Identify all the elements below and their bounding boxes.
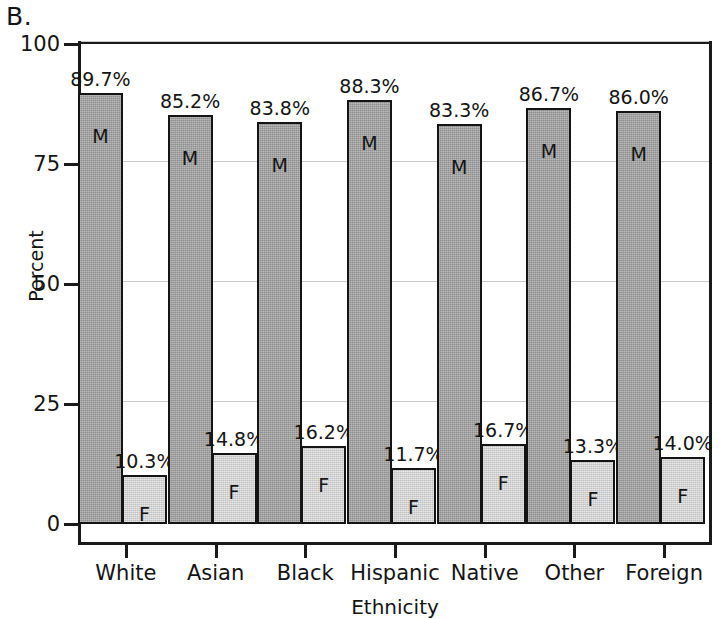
y-tick-label: 100 xyxy=(0,34,60,55)
bars-area: M89.7%F10.3%M85.2%F14.8%M83.8%F16.2%M88.… xyxy=(81,44,709,524)
x-tick-mark xyxy=(484,545,487,558)
bar-hispanic-f[interactable]: F xyxy=(391,468,436,524)
x-tick-mark xyxy=(394,545,397,558)
x-tick-label-foreign: Foreign xyxy=(625,561,703,585)
bar-value-label: 83.8% xyxy=(240,97,320,119)
bar-series-letter: F xyxy=(483,472,524,494)
bar-series-letter: F xyxy=(393,496,434,518)
panel-label: B. xyxy=(6,2,32,31)
x-tick-mark xyxy=(125,545,128,558)
bar-series-letter: M xyxy=(259,154,300,176)
bar-value-label: 86.0% xyxy=(599,86,679,108)
x-tick-label-asian: Asian xyxy=(187,561,244,585)
bar-series-letter: F xyxy=(572,488,613,510)
bar-value-label: 88.3% xyxy=(330,75,410,97)
bar-asian-m[interactable]: M xyxy=(168,115,213,524)
x-axis: Ethnicity WhiteAsianBlackHispanicNativeO… xyxy=(78,545,712,613)
y-tick-label: 25 xyxy=(0,394,60,415)
y-axis-title: Percent xyxy=(25,206,47,326)
bar-foreign-f[interactable]: F xyxy=(660,457,705,524)
bar-value-label: 14.0% xyxy=(643,432,722,454)
bar-series-letter: F xyxy=(662,485,703,507)
bar-value-label: 85.2% xyxy=(150,90,230,112)
x-tick-label-hispanic: Hispanic xyxy=(350,561,439,585)
bar-other-m[interactable]: M xyxy=(526,108,571,524)
x-tick-label-black: Black xyxy=(277,561,334,585)
x-tick-mark xyxy=(215,545,218,558)
bar-native-f[interactable]: F xyxy=(481,444,526,524)
x-tick-label-white: White xyxy=(95,561,156,585)
bar-group: M89.7%F10.3% xyxy=(81,44,171,524)
gridline xyxy=(81,41,709,42)
bar-series-letter: F xyxy=(303,474,344,496)
bar-black-f[interactable]: F xyxy=(301,446,346,524)
bar-series-letter: M xyxy=(528,140,569,162)
x-tick-mark xyxy=(573,545,576,558)
x-tick-mark xyxy=(663,545,666,558)
bar-group: M83.8%F16.2% xyxy=(260,44,350,524)
bar-series-letter: M xyxy=(170,147,211,169)
bar-series-letter: F xyxy=(214,481,255,503)
bar-series-letter: M xyxy=(349,132,390,154)
x-tick-mark xyxy=(304,545,307,558)
bar-series-letter: M xyxy=(80,125,121,147)
bar-other-f[interactable]: F xyxy=(570,460,615,524)
bar-group: M83.3%F16.7% xyxy=(440,44,530,524)
bar-group: M86.0%F14.0% xyxy=(619,44,709,524)
bar-value-label: 89.7% xyxy=(60,68,140,90)
x-tick-label-other: Other xyxy=(545,561,605,585)
bar-value-label: 83.3% xyxy=(419,99,499,121)
bar-series-letter: M xyxy=(618,143,659,165)
bar-foreign-m[interactable]: M xyxy=(616,111,661,524)
y-tick-label: 0 xyxy=(0,514,60,535)
y-tick-label: 50 xyxy=(0,274,60,295)
bar-white-f[interactable]: F xyxy=(122,475,167,524)
bar-group: M86.7%F13.3% xyxy=(530,44,620,524)
bar-series-letter: F xyxy=(124,503,165,525)
x-axis-title: Ethnicity xyxy=(78,595,712,619)
bar-series-letter: M xyxy=(439,156,480,178)
bar-native-m[interactable]: M xyxy=(437,124,482,524)
bar-value-label: 86.7% xyxy=(509,83,589,105)
y-tick-label: 75 xyxy=(0,154,60,175)
x-tick-label-native: Native xyxy=(451,561,519,585)
bar-black-m[interactable]: M xyxy=(257,122,302,524)
bar-asian-f[interactable]: F xyxy=(212,453,257,524)
